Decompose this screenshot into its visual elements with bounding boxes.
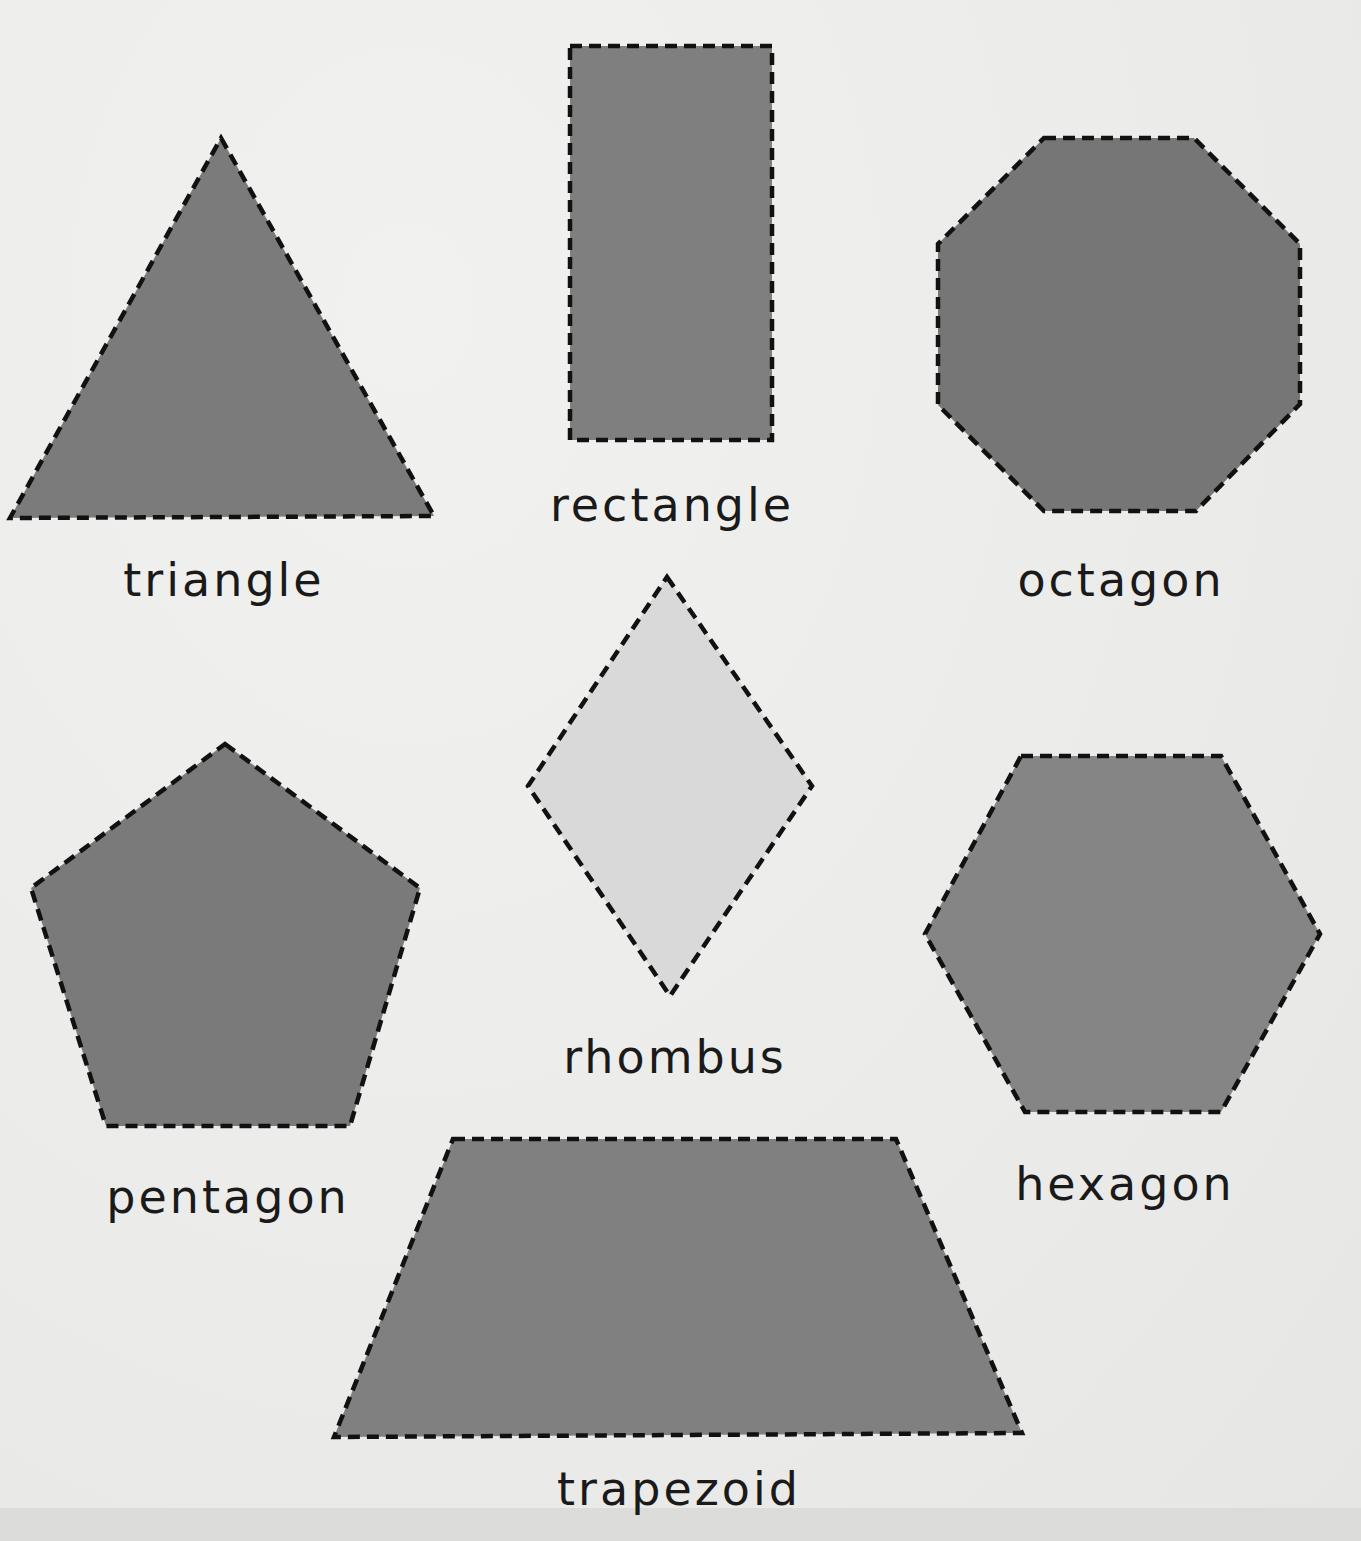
trapezoid-shape bbox=[334, 1139, 1022, 1437]
hexagon-label: hexagon bbox=[1015, 1157, 1235, 1211]
rectangle-shape bbox=[570, 46, 772, 440]
rhombus-shape bbox=[528, 577, 812, 996]
rhombus-label: rhombus bbox=[563, 1030, 787, 1084]
octagon-label: octagon bbox=[1017, 553, 1224, 607]
pentagon-shape bbox=[31, 744, 420, 1126]
trapezoid-label: trapezoid bbox=[557, 1462, 801, 1516]
hexagon-shape bbox=[925, 756, 1320, 1112]
triangle-label: triangle bbox=[123, 553, 324, 607]
triangle-shape bbox=[10, 138, 434, 518]
shapes-canvas bbox=[0, 0, 1361, 1541]
pentagon-label: pentagon bbox=[106, 1170, 349, 1224]
octagon-shape bbox=[938, 138, 1300, 511]
rectangle-label: rectangle bbox=[550, 478, 794, 532]
